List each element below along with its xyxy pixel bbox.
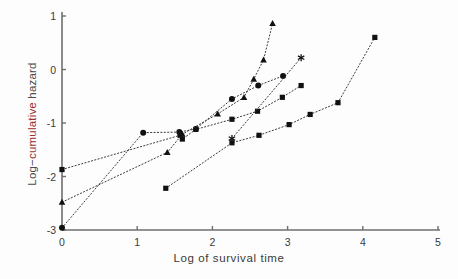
data-point-triangle bbox=[260, 56, 267, 62]
data-point-circle bbox=[59, 225, 65, 231]
data-point-triangle bbox=[250, 76, 257, 82]
scatter-plot bbox=[0, 0, 458, 279]
series-line bbox=[62, 76, 283, 228]
y-tick-label: -2 bbox=[36, 171, 56, 183]
data-point-square bbox=[180, 136, 185, 141]
data-point-circle bbox=[255, 83, 261, 89]
data-point-square bbox=[59, 167, 64, 172]
data-point-triangle bbox=[269, 20, 276, 26]
data-point-square bbox=[163, 186, 168, 191]
data-point-circle bbox=[140, 130, 146, 136]
data-point-triangle bbox=[241, 94, 248, 100]
x-tick-label: 3 bbox=[285, 236, 291, 248]
data-point-square bbox=[280, 95, 285, 100]
x-axis-label: Log of survival time bbox=[0, 252, 458, 264]
data-point-triangle bbox=[214, 111, 221, 117]
x-tick-label: 2 bbox=[209, 236, 215, 248]
x-tick-label: 0 bbox=[59, 236, 65, 248]
data-point-square bbox=[256, 133, 261, 138]
data-point-square bbox=[287, 122, 292, 127]
x-tick-label: 1 bbox=[134, 236, 140, 248]
y-tick-label: 1 bbox=[36, 10, 56, 22]
series-group-1 bbox=[59, 83, 303, 172]
data-point-circle bbox=[229, 96, 235, 102]
y-tick-label: 0 bbox=[36, 64, 56, 76]
series-group-3 bbox=[59, 20, 276, 205]
data-point-square bbox=[335, 100, 340, 105]
series-line bbox=[166, 37, 375, 188]
y-tick-label: -3 bbox=[36, 224, 56, 236]
x-tick-label: 5 bbox=[435, 236, 441, 248]
data-point-square bbox=[308, 112, 313, 117]
series-line bbox=[62, 24, 273, 203]
series-group-2 bbox=[59, 73, 286, 231]
y-tick-label: -1 bbox=[36, 117, 56, 129]
data-point-triangle bbox=[59, 199, 66, 205]
x-tick-label: 4 bbox=[360, 236, 366, 248]
data-point-circle bbox=[193, 126, 199, 132]
series-line bbox=[62, 86, 301, 170]
chart-root: Log−cumulative hazard Log of survival ti… bbox=[0, 0, 458, 279]
series-group-5 bbox=[229, 54, 305, 142]
series-group-4 bbox=[163, 35, 377, 191]
data-point-square bbox=[229, 117, 234, 122]
data-point-square bbox=[299, 83, 304, 88]
data-point-square bbox=[372, 35, 377, 40]
